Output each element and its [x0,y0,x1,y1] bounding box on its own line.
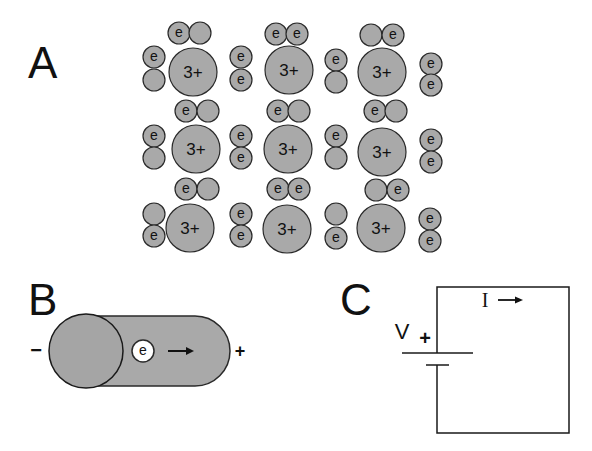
electron: e [230,69,252,91]
battery-positive-symbol: + [419,327,431,349]
ion: 3+ [358,48,406,96]
electron-circle [385,100,407,122]
electron-circle [197,178,219,200]
panel-a-label: A [28,38,58,87]
electron-label: e [139,342,147,358]
electron: e [420,74,442,96]
electron-label: e [237,227,245,243]
electron: e [175,100,197,122]
electron: e [325,227,347,249]
electron-label: e [427,131,435,147]
circuit-wire [437,287,569,433]
panel-a: A 3+3+3+3+3+3+3+3+3+eeeeeeeeeeeeeeeeeeee… [28,22,442,253]
electron-vacancy [189,22,211,44]
electron-label: e [332,51,340,67]
panel-c: C V + I [340,275,569,433]
electron: e [325,125,347,147]
electron-label: e [293,25,301,41]
electron-label: e [371,102,379,118]
voltage-label: V [395,319,410,344]
electron: e [325,49,347,71]
electron-circle [197,100,219,122]
electron-circle [288,100,310,122]
electron-label: e [182,180,190,196]
electron-label: e [175,24,183,40]
electron: e [382,24,404,46]
electron-circle [360,24,382,46]
electron-circle [143,69,165,91]
electron: e [143,225,165,247]
negative-terminal-symbol: − [30,339,42,361]
electron-label: e [332,229,340,245]
electron-circle [365,179,387,201]
ion: 3+ [358,128,406,176]
ion-charge-label: 3+ [277,220,296,239]
electron-vacancy [325,147,347,169]
panel-b: B e − + [28,275,245,388]
electron: e [286,23,308,45]
electron: e [267,178,289,200]
electron-label: e [389,26,397,42]
electron-label: e [274,180,282,196]
electron-label: e [237,205,245,221]
ion-charge-label: 3+ [183,63,202,82]
electron-vacancy [197,178,219,200]
electron: e [420,129,442,151]
electron-label: e [426,232,434,248]
electron: e [230,147,252,169]
electron-circle [325,203,347,225]
electron-vacancy [288,100,310,122]
electron-vacancy [143,69,165,91]
electron-label: e [237,48,245,64]
electron: e [288,178,310,200]
electron: e [265,23,287,45]
electron-label: e [427,153,435,169]
electron-vacancy [325,71,347,93]
electron-label: e [427,55,435,71]
ion: 3+ [357,204,405,252]
electron-vacancy [143,203,165,225]
ion-charge-label: 3+ [372,63,391,82]
panel-c-label: C [340,275,372,324]
ion-charge-label: 3+ [279,61,298,80]
current-label: I [482,289,489,311]
electron: e [230,46,252,68]
electron: e [419,230,441,252]
electron-circle [189,22,211,44]
electron-label: e [237,127,245,143]
electron: e [230,203,252,225]
electron-label: e [274,102,282,118]
electron: e [143,125,165,147]
electron: e [175,178,197,200]
ion-charge-label: 3+ [186,140,205,159]
electron-label: e [237,71,245,87]
electron-label: e [150,227,158,243]
electron-label: e [295,180,303,196]
electron-circle [325,71,347,93]
electron-label: e [182,102,190,118]
ion: 3+ [166,204,214,252]
positive-terminal-symbol: + [235,341,246,361]
conductor-end-circle [49,314,123,388]
electron-vacancy [197,100,219,122]
current-arrow-icon [498,297,523,304]
electron-label: e [150,48,158,64]
electron-label: e [427,76,435,92]
electron-vacancy [143,147,165,169]
ion-charge-label: 3+ [180,219,199,238]
electron-label: e [272,25,280,41]
electron: e [143,46,165,68]
electron-vacancy [385,100,407,122]
electron-label: e [426,210,434,226]
electron-vacancy [360,24,382,46]
electron: e [419,208,441,230]
electron: e [230,125,252,147]
electron-label: e [237,149,245,165]
electron-vacancy [325,203,347,225]
electron-label: e [394,181,402,197]
ion: 3+ [172,125,220,173]
electron: e [420,151,442,173]
electron-label: e [150,127,158,143]
ion: 3+ [265,46,313,94]
electron: e [420,53,442,75]
